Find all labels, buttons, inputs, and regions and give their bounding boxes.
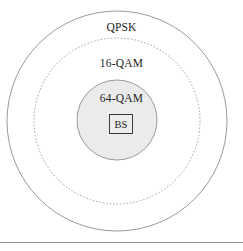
ring-label-64qam: 64-QAM xyxy=(0,92,243,104)
coverage-diagram-figure: QPSK 16-QAM 64-QAM BS xyxy=(0,0,243,251)
ring-label-qpsk: QPSK xyxy=(0,21,243,33)
base-station-label: BS xyxy=(114,119,127,130)
ring-label-16qam: 16-QAM xyxy=(0,57,243,69)
base-station-node: BS xyxy=(109,114,133,134)
footer-divider xyxy=(0,242,243,243)
